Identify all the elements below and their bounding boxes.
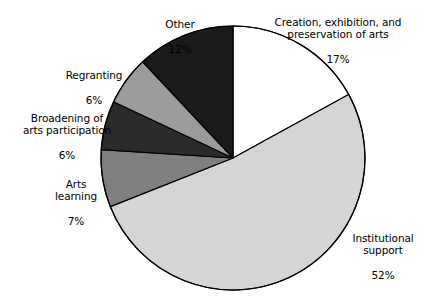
slice-label-regranting-text: Regranting xyxy=(30,69,158,82)
slice-label-creation: Creation, exhibition, and preservation o… xyxy=(252,3,424,79)
slice-label-other-value: 12% xyxy=(132,43,228,56)
slice-label-institutional: Institutional support 52% xyxy=(340,219,426,295)
slice-label-broadening-text: Broadening of arts participation xyxy=(2,112,132,137)
slice-label-broadening: Broadening of arts participation 6% xyxy=(2,99,132,175)
pie-chart-figure: Creation, exhibition, and preservation o… xyxy=(0,0,427,302)
slice-label-broadening-value: 6% xyxy=(2,149,132,162)
slice-label-arts-learning-text: Arts learning xyxy=(22,178,130,203)
slice-label-creation-value: 17% xyxy=(252,53,424,66)
slice-label-creation-text: Creation, exhibition, and preservation o… xyxy=(252,16,424,41)
slice-label-institutional-text: Institutional support xyxy=(340,232,426,257)
slice-label-arts-learning-value: 7% xyxy=(22,215,130,228)
slice-label-institutional-value: 52% xyxy=(340,269,426,282)
slice-label-arts-learning: Arts learning 7% xyxy=(22,165,130,241)
slice-label-other-text: Other xyxy=(132,18,228,31)
